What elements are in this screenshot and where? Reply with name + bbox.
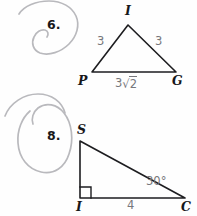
radicand: 2	[129, 76, 137, 91]
side-label-IG: 3	[155, 36, 162, 48]
problem-number-8: 8.	[47, 130, 60, 143]
triangle-pig	[92, 25, 176, 72]
side-label-PG: 3√2	[115, 78, 137, 90]
side-label-IC: 4	[127, 200, 134, 212]
vertex-label-I-top: I	[125, 5, 131, 18]
vertex-label-S: S	[77, 124, 86, 137]
radical-coefficient: 3	[115, 76, 122, 90]
pencil-scribble-bottom-icon	[5, 94, 72, 173]
right-angle-marker-icon	[80, 187, 91, 198]
vertex-label-C: C	[181, 201, 191, 214]
vertex-label-P: P	[78, 75, 87, 88]
vertex-label-G: G	[172, 75, 183, 88]
vertex-label-I-bottom: I	[76, 201, 82, 214]
side-label-PI: 3	[97, 36, 104, 48]
angle-label-30: 30°	[146, 176, 166, 188]
worksheet-page: 6. I P G 3 3 3√2 8. S I C 30° 4	[0, 0, 197, 216]
triangle-sic	[80, 141, 185, 198]
problem-number-6: 6.	[47, 19, 60, 32]
radical-sign-icon: √2	[122, 79, 137, 91]
figure-layer	[0, 0, 197, 216]
